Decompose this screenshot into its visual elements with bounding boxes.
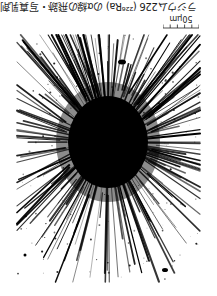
scale-bar-ticks [163, 24, 199, 29]
figure: ラジウム226 (²²⁶Ra) のα線の飛跡・写真乳剤 50μm [0, 0, 217, 296]
scale-bar-label: 50μm [161, 14, 201, 23]
figure-caption: ラジウム226 (²²⁶Ra) のα線の飛跡・写真乳剤 [0, 0, 217, 12]
micrograph-image [0, 30, 217, 296]
scale-bar: 50μm [161, 13, 201, 31]
